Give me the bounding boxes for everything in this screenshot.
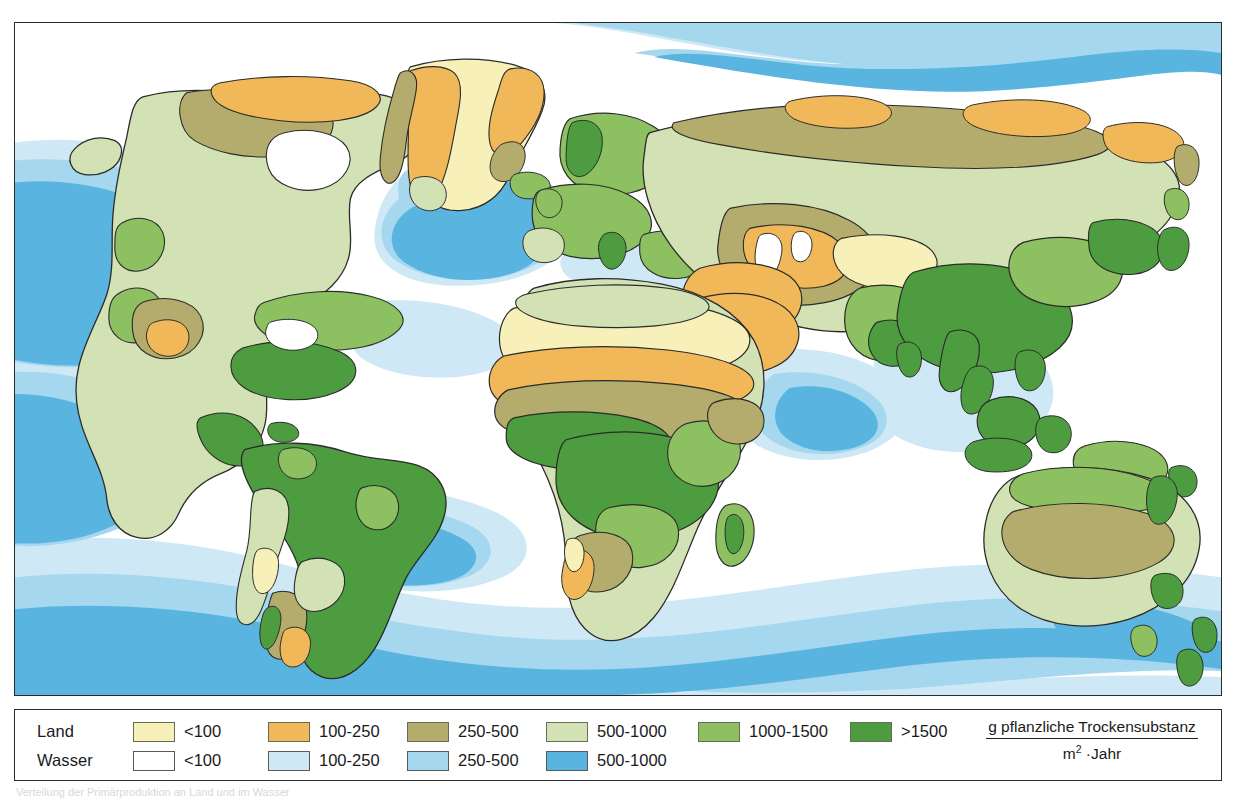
legend-unit: g pflanzliche Trockensubstanz m2 ·Jahr	[967, 718, 1217, 764]
legend-row-label-water: Wasser	[15, 751, 133, 770]
legend-swatch-land-250-500	[407, 722, 449, 742]
legend-item-water-500-1000[interactable]: 500-1000	[546, 746, 667, 775]
land-ne-brazil-1000-1500	[356, 486, 399, 530]
legend-label-land-250-500: 250-500	[458, 722, 519, 741]
legend-swatch-water-250-500	[407, 751, 449, 771]
legend-unit-denominator: m2 ·Jahr	[967, 743, 1217, 763]
legend-swatch-land-1000-1500	[698, 722, 740, 742]
legend-label-water-lt100: <100	[184, 751, 221, 770]
legend-row-label-land: Land	[15, 722, 133, 741]
legend-item-land-500-1000[interactable]: 500-1000	[546, 717, 667, 746]
water-hudson-bay	[266, 130, 350, 190]
land-java	[965, 438, 1032, 472]
legend-item-land-1000-1500[interactable]: 1000-1500	[698, 717, 828, 746]
figure-caption: Verteilung der Primärproduktion an Land …	[16, 786, 916, 798]
legend-item-land-100-250[interactable]: 100-250	[268, 717, 380, 746]
legend-label-land-100-250: 100-250	[319, 722, 380, 741]
land-kamchatka	[1174, 145, 1199, 186]
legend-swatch-land-100-250	[268, 722, 310, 742]
legend-swatch-water-lt100	[133, 751, 175, 771]
water-aral-sea	[791, 231, 812, 261]
page-root: Land <100 100-250 250-500 500-1000	[0, 0, 1238, 804]
world-map-canvas	[15, 23, 1221, 695]
land-philippines	[1015, 350, 1045, 391]
legend-unit-denominator-suffix: ·Jahr	[1082, 745, 1122, 762]
legend-swatch-water-100-250	[268, 751, 310, 771]
legend-label-land-500-1000: 500-1000	[597, 722, 667, 741]
legend-swatch-water-500-1000	[546, 751, 588, 771]
map-legend: Land <100 100-250 250-500 500-1000	[14, 709, 1222, 781]
legend-swatch-land-lt100	[133, 722, 175, 742]
legend-unit-denominator-base: m	[1063, 745, 1076, 762]
legend-swatch-land-500-1000	[546, 722, 588, 742]
legend-label-land-lt100: <100	[184, 722, 221, 741]
legend-swatch-land-gt1500	[850, 722, 892, 742]
land-new-zealand-south	[1177, 649, 1203, 686]
land-british-isles	[536, 189, 562, 218]
legend-item-water-100-250[interactable]: 100-250	[268, 746, 380, 775]
legend-item-land-250-500[interactable]: 250-500	[407, 717, 519, 746]
land-tasmania	[1131, 625, 1157, 656]
land-venezuela-1000-1500	[278, 448, 316, 479]
land-sonoran-desert-100-250	[146, 320, 189, 357]
world-map	[14, 22, 1222, 696]
legend-label-water-100-250: 100-250	[319, 751, 380, 770]
legend-label-water-500-1000: 500-1000	[597, 751, 667, 770]
legend-label-land-1000-1500: 1000-1500	[749, 722, 828, 741]
land-iberia-500-1000	[523, 228, 564, 263]
legend-item-water-250-500[interactable]: 250-500	[407, 746, 519, 775]
land-victoria-gt1500	[1151, 573, 1183, 608]
legend-item-land-gt1500[interactable]: >1500	[850, 717, 947, 746]
land-sulawesi	[1036, 416, 1072, 453]
legend-item-land-lt100[interactable]: <100	[133, 717, 221, 746]
legend-item-water-lt100[interactable]: <100	[133, 746, 221, 775]
legend-label-water-250-500: 250-500	[458, 751, 519, 770]
legend-unit-numerator: g pflanzliche Trockensubstanz	[986, 718, 1198, 739]
legend-label-land-gt1500: >1500	[901, 722, 947, 741]
land-namib-core-lt100	[564, 538, 584, 571]
